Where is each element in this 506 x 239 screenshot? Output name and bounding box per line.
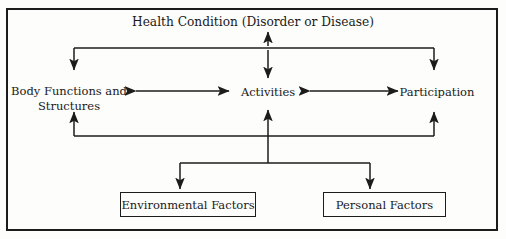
node-participation: Participation xyxy=(378,85,496,99)
box-environmental-factors-label: Environmental Factors xyxy=(121,198,254,212)
diagram-canvas: Health Condition (Disorder or Disease) B… xyxy=(0,0,506,239)
box-environmental-factors: Environmental Factors xyxy=(120,192,256,217)
node-health-condition: Health Condition (Disorder or Disease) xyxy=(0,15,506,29)
node-activities: Activities xyxy=(208,85,328,99)
box-personal-factors-label: Personal Factors xyxy=(336,198,433,212)
node-body-functions-and-structures: Body Functions and Structures xyxy=(10,84,128,114)
box-personal-factors: Personal Factors xyxy=(323,192,446,217)
